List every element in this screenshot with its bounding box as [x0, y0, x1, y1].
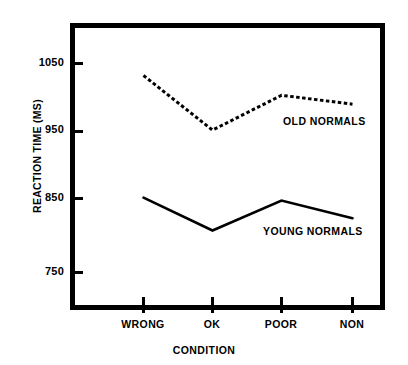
- x-tick-mark-ok: [211, 297, 214, 313]
- y-tick-mark-950: [70, 130, 83, 133]
- y-tick-label-1050: 1050: [20, 56, 64, 68]
- y-tick-mark-850: [70, 197, 83, 200]
- y-tick-label-750: 750: [20, 265, 64, 277]
- x-tick-mark-non: [351, 297, 354, 313]
- x-tick-mark-wrong: [142, 297, 145, 313]
- series-label-old-normals: OLD NORMALS: [283, 115, 366, 127]
- y-tick-mark-750: [70, 271, 83, 274]
- x-tick-label-poor: POOR: [241, 318, 321, 330]
- x-tick-label-non: NON: [312, 318, 392, 330]
- y-tick-label-950: 950: [20, 123, 64, 135]
- y-axis-title: REACTION TIME (MS): [31, 56, 43, 256]
- y-tick-mark-1050: [70, 62, 83, 65]
- line-chart-figure: REACTION TIME (MS) 1050 950 850 750 WRON…: [0, 0, 408, 365]
- x-tick-mark-poor: [280, 297, 283, 313]
- series-label-young-normals: YOUNG NORMALS: [263, 225, 363, 237]
- x-tick-label-ok: OK: [172, 318, 252, 330]
- x-tick-label-wrong: WRONG: [103, 318, 183, 330]
- plot-area-frame: [70, 23, 385, 310]
- x-axis-title: CONDITION: [0, 344, 408, 356]
- y-tick-label-850: 850: [20, 191, 64, 203]
